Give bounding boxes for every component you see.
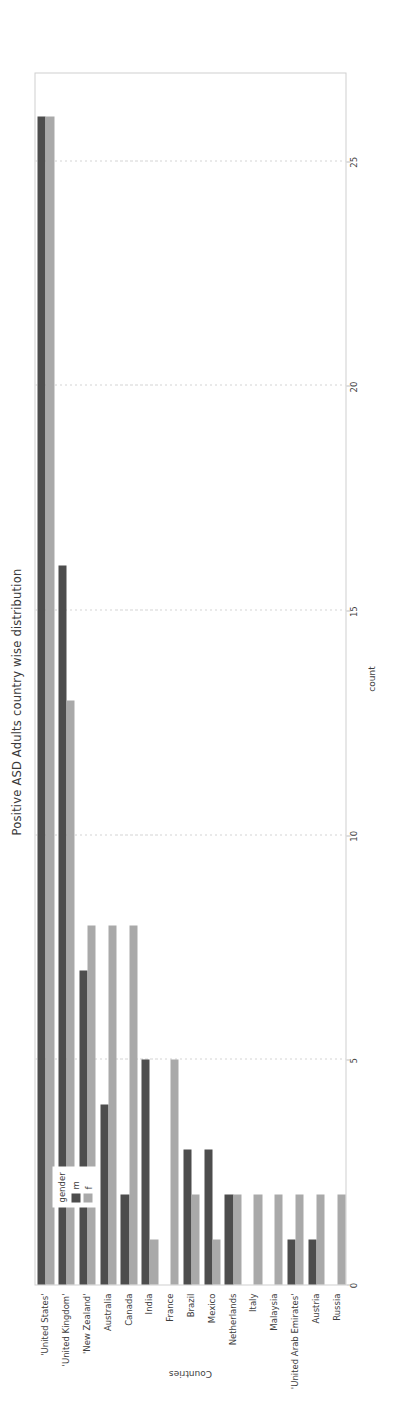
legend-item-f: f <box>82 1172 94 1202</box>
bar-group <box>58 73 74 1284</box>
bar-group <box>308 73 324 1284</box>
bar-f <box>45 116 53 1284</box>
value-axis-title: count <box>366 72 376 1285</box>
value-tickmark <box>346 610 350 611</box>
bar-group <box>328 73 344 1284</box>
bar-f <box>212 1239 220 1284</box>
bar-group <box>100 73 116 1284</box>
bar-m <box>37 116 45 1284</box>
bar-group <box>162 73 178 1284</box>
matplotlib-figure: Positive ASD Adults country wise distrib… <box>0 0 401 1403</box>
bar-group <box>141 73 157 1284</box>
bar-group <box>37 73 53 1284</box>
bar-m <box>204 1149 212 1284</box>
legend-swatch-m-icon <box>71 1193 80 1202</box>
plot-axes <box>34 72 346 1285</box>
bar-group <box>79 73 95 1284</box>
bar-f <box>316 1194 324 1284</box>
bar-f <box>295 1194 303 1284</box>
bar-f <box>170 1059 178 1284</box>
bar-group <box>224 73 240 1284</box>
value-tickmark <box>346 1059 350 1060</box>
bar-group <box>245 73 261 1284</box>
bar-m <box>183 1149 191 1284</box>
legend-label-f: f <box>82 1186 94 1189</box>
bar-f <box>337 1194 345 1284</box>
bar-group <box>287 73 303 1284</box>
bar-m <box>79 970 87 1284</box>
value-tickmark <box>346 835 350 836</box>
value-tickmark <box>346 161 350 162</box>
bar-f <box>253 1194 261 1284</box>
bar-group <box>120 73 136 1284</box>
legend-title: gender <box>55 1172 67 1202</box>
value-tickmark <box>346 1284 350 1285</box>
bar-group <box>204 73 220 1284</box>
bar-f <box>108 925 116 1284</box>
bar-m <box>224 1194 232 1284</box>
bar-f <box>191 1194 199 1284</box>
chart-screenshot: Positive ASD Adults country wise distrib… <box>0 0 401 1403</box>
value-axis-ticklabels: 0510152025 <box>348 72 366 1285</box>
legend: gender m f <box>52 1166 98 1207</box>
bar-m <box>100 1104 108 1284</box>
bar-group <box>266 73 282 1284</box>
rotated-figure-host: Positive ASD Adults country wise distrib… <box>0 0 401 1403</box>
bar-f <box>149 1239 157 1284</box>
bar-m <box>308 1239 316 1284</box>
chart-title: Positive ASD Adults country wise distrib… <box>9 0 23 1403</box>
legend-label-m: m <box>69 1181 81 1189</box>
bar-f <box>274 1194 282 1284</box>
category-axis-title-text: Countries <box>168 1368 211 1378</box>
bar-f <box>233 1194 241 1284</box>
bar-groups <box>35 73 345 1284</box>
bar-f <box>129 925 137 1284</box>
bar-group <box>183 73 199 1284</box>
bar-m <box>120 1194 128 1284</box>
value-tickmark <box>346 385 350 386</box>
legend-item-m: m <box>69 1172 81 1202</box>
category-axis-title: Countries <box>34 1287 346 1403</box>
bar-m <box>287 1239 295 1284</box>
bar-f <box>87 925 95 1284</box>
bar-m <box>141 1059 149 1284</box>
legend-swatch-f-icon <box>83 1193 92 1202</box>
